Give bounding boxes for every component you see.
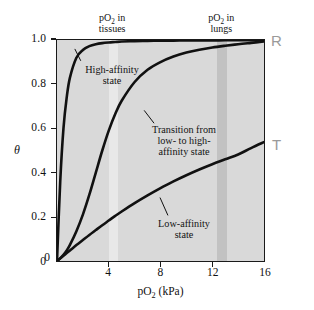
y-tick-label-1.0: 1.0: [31, 33, 46, 45]
oxygen-binding-curve-figure: High-affinity state Transition from low-…: [0, 0, 314, 310]
y-tick-0.8: [51, 83, 56, 84]
transition-line-2: low- to high-: [129, 135, 239, 146]
y-tick-label-0.2: 0.2: [31, 211, 46, 223]
r-state-marker: R: [271, 32, 282, 49]
leader-low-affinity: [160, 198, 168, 216]
origin-label: 0: [10, 251, 50, 263]
y-tick-label-0.6: 0.6: [31, 122, 46, 134]
low-affinity-annotation: Low-affinity state: [135, 218, 233, 240]
transition-line-1: Transition from: [129, 124, 239, 135]
x-tick-label-16: 16: [235, 266, 295, 278]
y-axis-title: θ: [14, 143, 20, 158]
y-tick-1.0: [51, 38, 56, 39]
y-tick-label-0.8: 0.8: [31, 78, 46, 90]
low-affinity-line-1: Low-affinity: [135, 218, 233, 229]
y-tick-0.6: [51, 128, 56, 129]
high-affinity-line-2: state: [61, 75, 163, 86]
band-caption-lungs: pO2 in lungs: [171, 13, 271, 35]
y-tick-0.2: [51, 217, 56, 218]
band-caption-tissues-line-2: tissues: [62, 24, 162, 35]
x-tick-label-4: 4: [78, 266, 138, 278]
plot-area: High-affinity state Transition from low-…: [56, 39, 265, 262]
x-axis-title-text: pO2 (kPa): [138, 285, 184, 297]
y-tick-label-0.4: 0.4: [31, 167, 46, 179]
low-affinity-line-2: state: [135, 229, 233, 240]
leader-transition: [144, 110, 154, 123]
y-tick-0.4: [51, 172, 56, 173]
t-state-marker: T: [272, 136, 282, 153]
x-tick-label-8: 8: [131, 266, 191, 278]
x-tick-label-12: 12: [183, 266, 243, 278]
high-affinity-annotation: High-affinity state: [61, 64, 163, 86]
band-caption-lungs-line-2: lungs: [171, 24, 271, 35]
transition-annotation: Transition from low- to high- affinity s…: [129, 124, 239, 158]
x-axis-title: pO2 (kPa): [56, 285, 265, 297]
band-caption-tissues: pO2 in tissues: [62, 13, 162, 35]
transition-line-3: affinity state: [129, 146, 239, 157]
high-affinity-line-1: High-affinity: [61, 64, 163, 75]
